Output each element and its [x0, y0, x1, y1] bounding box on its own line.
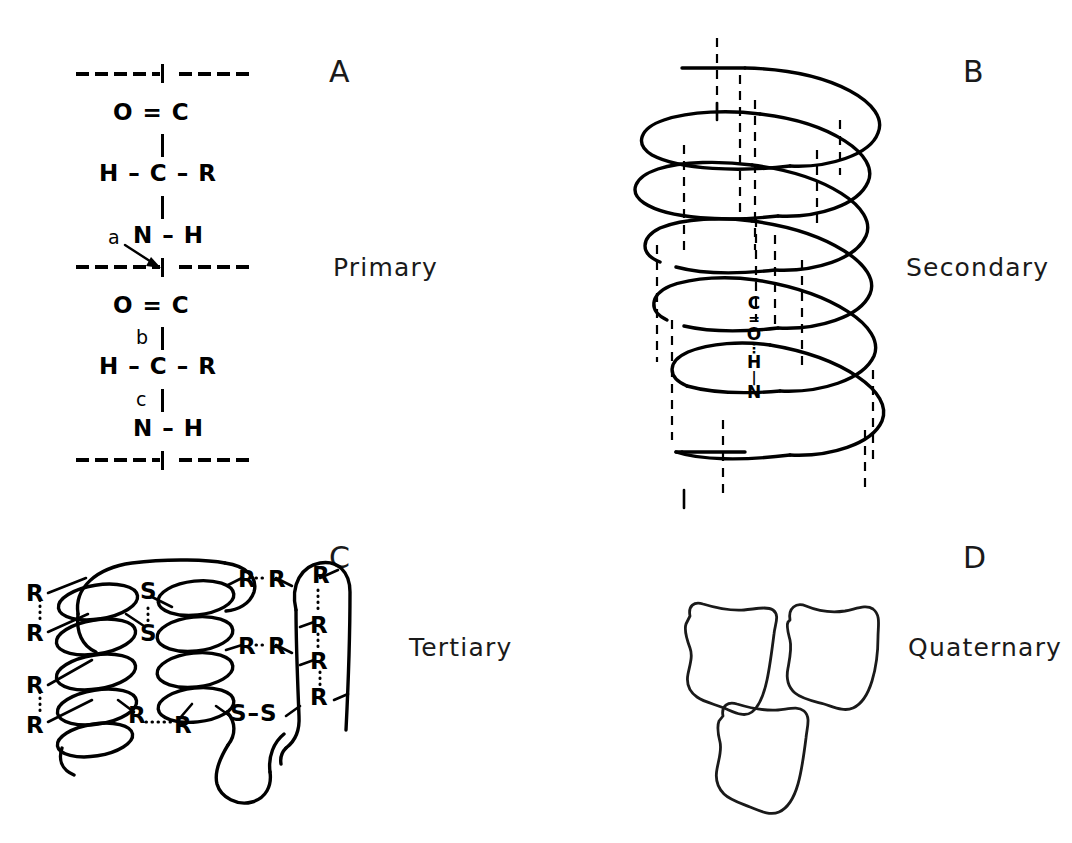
subunit-blob-2 [787, 605, 878, 710]
quaternary-subunits-svg [0, 0, 1072, 843]
subunit-blob-1 [685, 603, 776, 714]
protein-structure-figure: A Primary O = C H – C – R N – H a [0, 0, 1072, 843]
subunit-blob-3 [716, 703, 808, 813]
